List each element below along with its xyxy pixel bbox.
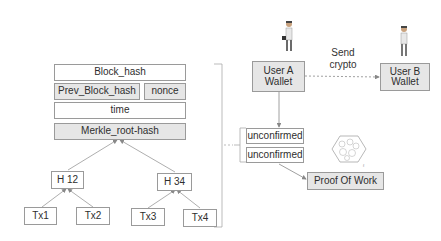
connector-lines [0,0,441,241]
svg-text:ℓ: ℓ [363,163,365,168]
unconfirmed-tx-2: unconfirmed [246,147,304,163]
hexagon-network-icon: ℓ [330,134,370,168]
unconfirmed-tx-1: unconfirmed [246,128,304,144]
tx-node-tx3: Tx3 [131,208,165,226]
tx-node-tx1: Tx1 [24,207,57,225]
person-icon [398,25,410,57]
tx-node-tx2: Tx2 [76,207,110,225]
block-hash-field: Block_hash [54,64,186,81]
time-field: time [54,102,186,119]
prev-block-hash-field: Prev_Block_hash [54,83,140,100]
proof-of-work-box: Proof Of Work [307,172,384,190]
person-with-briefcase-icon [280,20,296,54]
nonce-field: nonce [144,83,186,100]
tx-node-tx4: Tx4 [183,209,217,227]
merkle-root-hash-field: Merkle_root-hash [54,123,186,140]
hash-node-h34: H 34 [157,173,192,191]
user-a-wallet: User A Wallet [252,61,305,92]
hash-node-h12: H 12 [51,171,84,189]
send-crypto-label: Send crypto [323,47,363,70]
user-b-wallet: User B Wallet [380,63,430,91]
